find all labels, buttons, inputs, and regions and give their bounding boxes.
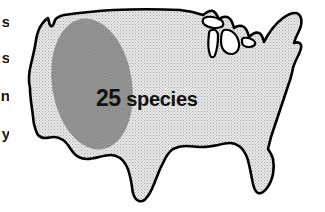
range-label-25-species: 25 species [96,86,198,111]
lake-michigan [208,30,218,58]
lake-ontario [242,38,255,47]
range-label-count: 25 [96,85,121,111]
species-range-map-figure: 25 species s s n y [0,0,325,212]
range-label-unit: species [126,88,197,110]
